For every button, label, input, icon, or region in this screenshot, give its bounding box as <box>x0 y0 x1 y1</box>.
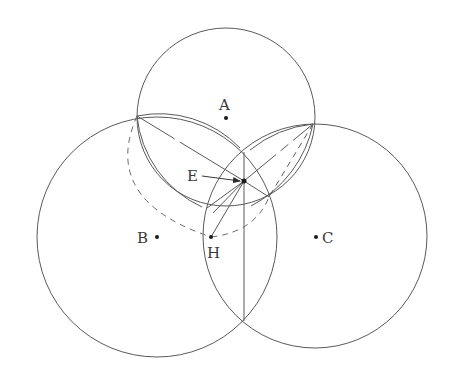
arc-left-lens <box>137 116 202 207</box>
label-a: A <box>218 96 230 114</box>
e-pointer-arrow <box>202 176 240 181</box>
point-e-dot <box>242 179 247 184</box>
label-b: B <box>137 229 148 247</box>
point-h-dot <box>209 235 213 239</box>
diagram-canvas: A B C E H <box>0 0 454 381</box>
line-e-h <box>211 181 244 237</box>
point-a-dot <box>224 116 228 120</box>
point-b-dot <box>155 235 159 239</box>
dashed-arc-right <box>211 197 269 237</box>
line-e-p4 <box>244 181 269 197</box>
geometry-svg: A B C E H <box>0 0 454 381</box>
label-c: C <box>322 229 333 247</box>
line-e-p6 <box>207 181 244 208</box>
arc-right-lens <box>251 124 313 206</box>
arc-top-right <box>250 124 313 150</box>
label-h: H <box>207 244 220 262</box>
line-p2-p4 <box>269 124 313 197</box>
label-e: E <box>187 167 198 185</box>
point-c-dot <box>314 235 318 239</box>
